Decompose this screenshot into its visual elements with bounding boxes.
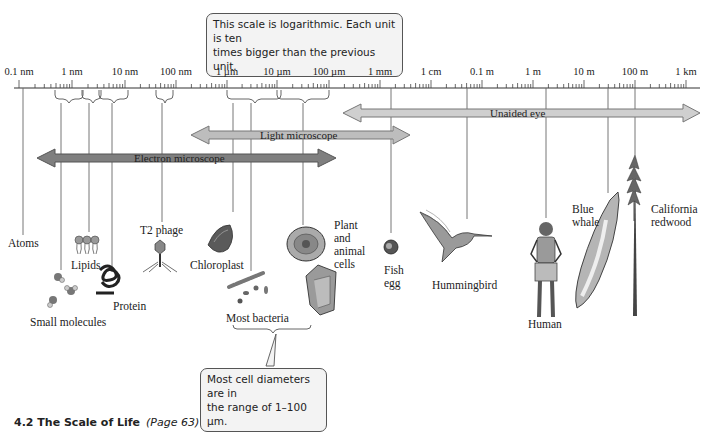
tick-label: 1 m <box>525 66 541 77</box>
range-label-electron-microscope: Electron microscope <box>134 152 225 165</box>
label-atoms: Atoms <box>8 237 39 250</box>
label-line: Blue <box>572 203 599 216</box>
tick-label: 10 m <box>573 66 594 77</box>
tick-label: 0.1 nm <box>4 66 33 77</box>
label-fish-egg: Fish egg <box>384 264 404 290</box>
callout-line-2: the range of 1–100 µm. <box>207 400 320 428</box>
label-line: egg <box>384 277 404 290</box>
tick-label: 1 km <box>675 66 696 77</box>
callout-line-1: Most cell diameters are in <box>207 372 320 400</box>
range-label-light-microscope: Light microscope <box>260 129 337 142</box>
tick-label: 100 m <box>622 66 649 77</box>
range-label-unaided-eye: Unaided eye <box>490 107 545 120</box>
fish-egg-illustration <box>384 240 398 254</box>
label-plant-animal-cells: Plant and animal cells <box>334 219 365 271</box>
axis-braces <box>55 90 329 103</box>
cell-range-brace <box>233 325 311 366</box>
hummingbird-illustration <box>420 210 492 262</box>
tick-label: 1 nm <box>61 66 82 77</box>
label-line: cells <box>334 258 365 271</box>
label-t2-phage: T2 phage <box>140 224 183 237</box>
label-line: Plant <box>334 219 365 232</box>
label-hummingbird: Hummingbird <box>432 279 497 292</box>
caption-title: 4.2 The Scale of Life <box>14 416 140 429</box>
tick-label: 10 nm <box>112 66 139 77</box>
label-lipids: Lipids <box>71 259 100 272</box>
redwood-illustration <box>627 155 641 316</box>
tick-label: 1 mm <box>368 66 392 77</box>
label-chloroplast: Chloroplast <box>190 259 244 272</box>
callout-line-1: This scale is logarithmic. Each unit is … <box>213 17 396 45</box>
t2-phage-illustration <box>143 240 177 272</box>
tick-label: 10 µm <box>263 66 290 77</box>
label-protein: Protein <box>113 300 146 313</box>
animal-cell-illustration <box>287 227 325 261</box>
label-line: whale <box>572 216 599 229</box>
chloroplast-illustration <box>208 225 233 252</box>
label-line: redwood <box>651 216 698 229</box>
cell-diameter-callout: Most cell diameters are in the range of … <box>200 368 327 432</box>
label-california-redwood: California redwood <box>651 203 698 229</box>
tick-label: 100 nm <box>160 66 192 77</box>
tick-label: 0.1 m <box>470 66 494 77</box>
label-line: Fish <box>384 264 404 277</box>
label-line: and <box>334 232 365 245</box>
label-human: Human <box>528 318 562 331</box>
label-line: animal <box>334 245 365 258</box>
label-blue-whale: Blue whale <box>572 203 599 229</box>
axis-ticks <box>19 80 686 88</box>
plant-cell-illustration <box>306 265 336 315</box>
label-line: California <box>651 203 698 216</box>
label-small-molecules: Small molecules <box>30 316 106 329</box>
label-most-bacteria: Most bacteria <box>226 312 289 325</box>
figure-caption: 4.2 The Scale of Life(Page 63) <box>14 416 199 429</box>
small-molecules-illustration <box>48 273 78 308</box>
lipids-illustration <box>75 236 99 254</box>
tick-label: 1 cm <box>421 66 442 77</box>
human-illustration <box>531 222 561 317</box>
tick-label: 1 µm <box>216 66 238 77</box>
bacteria-illustration <box>229 273 268 304</box>
caption-page-ref: (Page 63) <box>146 416 199 429</box>
tick-label: 100 µm <box>313 66 346 77</box>
